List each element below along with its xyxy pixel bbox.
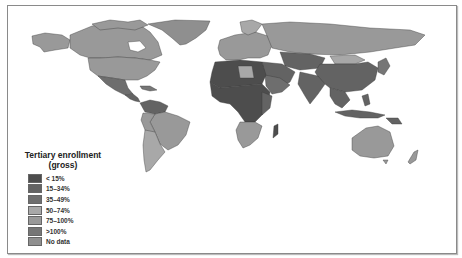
legend-swatch xyxy=(28,206,42,215)
legend-label: 50–74% xyxy=(46,207,70,214)
region-indonesia xyxy=(335,110,385,118)
legend-label: >100% xyxy=(46,228,66,235)
region-japan xyxy=(378,58,390,75)
legend-label: No data xyxy=(46,238,70,245)
legend-item-35-49: 35–49% xyxy=(28,194,118,205)
legend-swatch xyxy=(28,237,42,246)
legend-item-75-100: 75–100% xyxy=(28,215,118,226)
legend-label: 15–34% xyxy=(46,185,70,192)
legend-title-line1: Tertiary enrollment xyxy=(8,150,118,160)
region-caribbean xyxy=(140,86,157,91)
legend-item-gt100: >100% xyxy=(28,226,118,237)
region-sa-north xyxy=(140,100,168,114)
region-philippines xyxy=(362,94,370,106)
legend-label: 75–100% xyxy=(46,217,73,224)
legend-item-no-data: No data xyxy=(28,237,118,248)
region-russia xyxy=(262,22,425,55)
legend: Tertiary enrollment (gross) < 15% 15–34%… xyxy=(8,150,118,247)
legend-title-line2: (gross) xyxy=(8,160,118,170)
region-china xyxy=(315,62,378,92)
region-png xyxy=(386,118,402,124)
region-new-zealand xyxy=(408,150,418,164)
region-europe xyxy=(218,32,272,60)
region-madagascar xyxy=(273,124,278,138)
legend-label: 35–49% xyxy=(46,196,70,203)
region-sub-saharan xyxy=(210,82,270,122)
legend-swatch xyxy=(28,216,42,225)
legend-swatch xyxy=(28,227,42,236)
region-australia xyxy=(352,126,394,158)
region-scandinavia xyxy=(240,20,262,35)
legend-item-15-34: 15–34% xyxy=(28,184,118,195)
legend-items: < 15% 15–34% 35–49% 50–74% 75–100% >100%… xyxy=(28,173,118,247)
region-north-africa xyxy=(210,60,266,88)
region-tasmania xyxy=(383,160,388,164)
region-southern-africa xyxy=(236,122,262,148)
region-libya xyxy=(238,66,254,78)
region-east-africa xyxy=(262,92,272,115)
legend-swatch xyxy=(28,174,42,183)
legend-swatch xyxy=(28,184,42,193)
region-central-america xyxy=(125,94,140,102)
region-mongolia xyxy=(330,55,365,64)
region-alaska xyxy=(32,33,70,52)
legend-item-lt15: < 15% xyxy=(28,173,118,184)
legend-item-50-74: 50–74% xyxy=(28,205,118,216)
legend-label: < 15% xyxy=(46,175,65,182)
legend-swatch xyxy=(28,195,42,204)
legend-title: Tertiary enrollment (gross) xyxy=(8,150,118,170)
